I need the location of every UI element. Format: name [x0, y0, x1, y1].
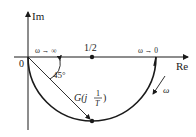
g-point — [90, 119, 94, 123]
direction-label: ω — [163, 85, 169, 95]
svg-text:T: T — [95, 99, 100, 108]
vector-line — [28, 57, 90, 119]
angle-label: 45° — [53, 70, 66, 80]
omega-zero-label: ω → 0 — [138, 46, 158, 55]
origin-label: 0 — [19, 58, 24, 69]
omega-inf-label: ω → ∞ — [35, 46, 57, 55]
g-point-label: G(j 1 T ) — [74, 89, 106, 108]
nyquist-diagram: Im Re 0 1/2 ω → ∞ ω → 0 45° ω G(j 1 T ) — [0, 0, 196, 137]
half-label: 1/2 — [84, 42, 97, 53]
imag-axis-label: Im — [32, 10, 45, 22]
svg-text:): ) — [103, 92, 106, 104]
nyquist-curve — [28, 57, 156, 121]
svg-text:1: 1 — [96, 89, 100, 98]
real-axis-label: Re — [176, 60, 188, 72]
half-point — [90, 55, 94, 59]
svg-text:G(j: G(j — [74, 92, 88, 104]
